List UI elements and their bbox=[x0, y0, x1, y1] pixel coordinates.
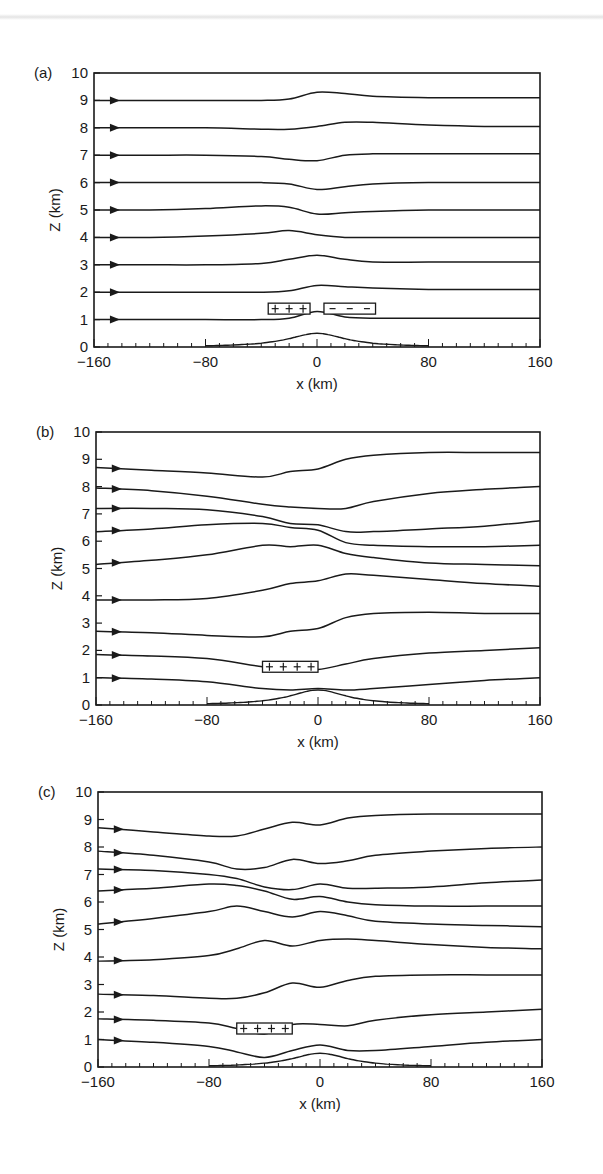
streamline bbox=[96, 452, 540, 477]
x-tick-label: −80 bbox=[196, 1073, 221, 1090]
streamline bbox=[96, 678, 540, 690]
flow-arrow-icon bbox=[110, 261, 120, 269]
streamline bbox=[94, 122, 540, 130]
streamline bbox=[98, 814, 542, 837]
x-tick-label: 0 bbox=[314, 711, 322, 728]
y-tick-label: 5 bbox=[80, 201, 88, 218]
y-tick-label: 6 bbox=[80, 174, 88, 191]
y-tick-label: 7 bbox=[80, 146, 88, 163]
flow-arrow-icon bbox=[112, 527, 122, 535]
y-tick-label: 8 bbox=[84, 838, 92, 855]
flow-arrow-icon bbox=[114, 991, 124, 999]
streamline bbox=[98, 847, 542, 869]
streamline bbox=[98, 975, 542, 999]
streamline bbox=[96, 487, 540, 509]
y-tick-label: 6 bbox=[82, 532, 90, 549]
y-tick-label: 5 bbox=[82, 560, 90, 577]
y-tick-label: 3 bbox=[80, 256, 88, 273]
y-tick-label: 5 bbox=[84, 921, 92, 938]
panel-label: (c) bbox=[38, 783, 56, 800]
flow-arrow-icon bbox=[114, 825, 124, 833]
flow-arrow-icon bbox=[114, 918, 124, 926]
y-tick-label: 2 bbox=[82, 641, 90, 658]
y-tick-label: 10 bbox=[75, 783, 92, 800]
y-tick-label: 9 bbox=[80, 91, 88, 108]
y-tick-label: 9 bbox=[82, 450, 90, 467]
chart-panel-c: 012345678910−160−80080160x (km)Z (km)(c) bbox=[0, 745, 603, 1145]
y-tick-label: 1 bbox=[80, 311, 88, 328]
streamline bbox=[94, 92, 540, 101]
flow-arrow-icon bbox=[114, 1037, 124, 1045]
x-tick-label: 80 bbox=[421, 711, 438, 728]
flow-arrow-icon bbox=[114, 1015, 124, 1023]
flow-arrow-icon bbox=[110, 96, 120, 104]
flow-arrow-icon bbox=[112, 674, 122, 682]
streamline bbox=[94, 231, 540, 238]
y-tick-label: 10 bbox=[73, 423, 90, 440]
x-tick-label: −80 bbox=[194, 711, 219, 728]
y-tick-label: 3 bbox=[82, 614, 90, 631]
flow-arrow-icon bbox=[114, 957, 124, 965]
x-tick-label: 0 bbox=[316, 1073, 324, 1090]
y-tick-label: 7 bbox=[84, 866, 92, 883]
y-tick-label: 6 bbox=[84, 893, 92, 910]
y-tick-label: 4 bbox=[84, 948, 92, 965]
streamline bbox=[98, 1009, 542, 1034]
streamline bbox=[98, 869, 542, 890]
flow-arrow-icon bbox=[114, 886, 124, 894]
streamline bbox=[96, 612, 540, 637]
streamline bbox=[94, 183, 540, 190]
y-tick-label: 1 bbox=[82, 669, 90, 686]
streamline bbox=[94, 154, 540, 161]
y-axis-label: Z (km) bbox=[50, 908, 67, 951]
streamline bbox=[96, 545, 540, 566]
flow-arrow-icon bbox=[114, 849, 124, 857]
y-tick-label: 1 bbox=[84, 1031, 92, 1048]
flow-arrow-icon bbox=[112, 596, 122, 604]
streamline bbox=[98, 906, 542, 927]
y-axis-label: Z (km) bbox=[48, 547, 65, 590]
streamline bbox=[94, 206, 540, 215]
streamline bbox=[94, 285, 540, 292]
flow-arrow-icon bbox=[112, 628, 122, 636]
flow-arrow-icon bbox=[110, 288, 120, 296]
chart-panel-a: 012345678910−160−80080160x (km)Z (km)(a) bbox=[0, 0, 603, 400]
y-tick-label: 8 bbox=[80, 119, 88, 136]
x-tick-label: 160 bbox=[527, 353, 552, 370]
y-tick-label: 9 bbox=[84, 811, 92, 828]
flow-arrow-icon bbox=[110, 316, 120, 324]
y-tick-label: 10 bbox=[71, 64, 88, 81]
y-tick-label: 2 bbox=[80, 283, 88, 300]
streamline bbox=[96, 574, 540, 600]
y-tick-label: 4 bbox=[82, 587, 90, 604]
flow-arrow-icon bbox=[110, 206, 120, 214]
flow-arrow-icon bbox=[112, 651, 122, 659]
x-tick-label: −160 bbox=[79, 711, 113, 728]
y-tick-label: 3 bbox=[84, 976, 92, 993]
flow-arrow-icon bbox=[110, 233, 120, 241]
flow-arrow-icon bbox=[110, 151, 120, 159]
x-tick-label: 160 bbox=[527, 711, 552, 728]
x-tick-label: 0 bbox=[313, 353, 321, 370]
y-tick-label: 8 bbox=[82, 478, 90, 495]
x-tick-label: −160 bbox=[81, 1073, 115, 1090]
chart-panel-b: 012345678910−160−80080160x (km)Z (km)(b) bbox=[0, 380, 603, 760]
flow-arrow-icon bbox=[114, 866, 124, 874]
x-tick-label: 160 bbox=[529, 1073, 554, 1090]
panel-label: (b) bbox=[36, 423, 54, 440]
y-axis-label: Z (km) bbox=[46, 188, 63, 231]
streamline bbox=[94, 311, 540, 319]
x-axis-label: x (km) bbox=[299, 1095, 341, 1112]
streamline bbox=[98, 939, 542, 961]
y-tick-label: 4 bbox=[80, 228, 88, 245]
streamline bbox=[98, 884, 542, 906]
flow-arrow-icon bbox=[112, 504, 122, 512]
y-tick-label: 7 bbox=[82, 505, 90, 522]
flow-arrow-icon bbox=[112, 465, 122, 473]
x-tick-label: −160 bbox=[77, 353, 111, 370]
x-tick-label: 80 bbox=[423, 1073, 440, 1090]
flow-arrow-icon bbox=[110, 124, 120, 132]
streamline bbox=[94, 255, 540, 265]
y-tick-label: 2 bbox=[84, 1003, 92, 1020]
flow-arrow-icon bbox=[110, 179, 120, 187]
